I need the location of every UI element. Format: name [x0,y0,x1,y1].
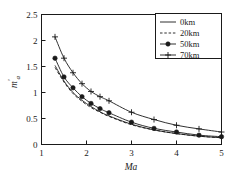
data-point-marker-circle [152,126,156,130]
data-point-marker-circle [71,86,75,90]
data-point-marker-circle [219,135,223,139]
y-axis-ticks: 00.511.522.5 [26,10,45,150]
data-point-marker-plus [97,94,103,100]
y-axis-title-subscript: a [14,75,22,79]
data-point-marker-circle [62,75,66,79]
y-tick-label: 1.5 [26,62,38,72]
data-point-marker-plus [196,126,202,132]
data-point-marker-plus [52,34,58,40]
data-point-marker-plus [106,98,112,104]
data-point-marker-plus [151,117,157,123]
y-tick-label: 1 [33,88,38,98]
chart-figure: 00.511.522.5 12345 Ma m′a 0km20km50km70k… [0,0,236,182]
data-point-marker-circle [89,101,93,105]
legend-label-50km: 50km [180,39,200,49]
data-point-marker-circle [53,56,57,60]
data-point-marker-circle [80,94,84,98]
series-line-20km [55,68,222,138]
x-tick-label: 4 [174,148,179,158]
x-tick-label: 3 [129,148,134,158]
y-axis-title: m′a [7,75,22,88]
y-tick-label: 0 [33,140,38,150]
legend-label-20km: 20km [180,28,200,38]
y-tick-label: 2.5 [26,10,38,20]
legend-label-0km: 0km [180,17,196,27]
data-point-marker-circle [129,120,133,124]
y-tick-label: 0.5 [26,114,38,124]
chart-legend: 0km20km50km70km [156,14,222,61]
x-tick-label: 2 [84,148,89,158]
data-point-marker-plus [129,109,135,115]
x-axis-ticks: 12345 [39,141,224,158]
data-point-marker-plus [61,55,67,61]
data-point-marker-plus [219,129,225,135]
x-axis-title: Ma [124,162,138,172]
y-tick-label: 2 [33,36,38,46]
data-point-marker-circle [174,130,178,134]
x-tick-label: 1 [39,148,44,158]
data-point-marker-circle [107,111,111,115]
data-point-marker-circle [98,106,102,110]
series-20km [55,68,222,138]
data-point-marker-plus [70,70,76,76]
x-tick-label: 5 [219,148,224,158]
data-point-marker-circle [197,133,201,137]
y-axis-title-text: m′a [7,75,22,88]
data-point-marker-plus [174,122,180,128]
data-point-marker-circle [166,42,170,46]
legend-label-70km: 70km [180,50,200,60]
chart-plot-area: 00.511.522.5 12345 Ma m′a 0km20km50km70k… [0,0,236,182]
